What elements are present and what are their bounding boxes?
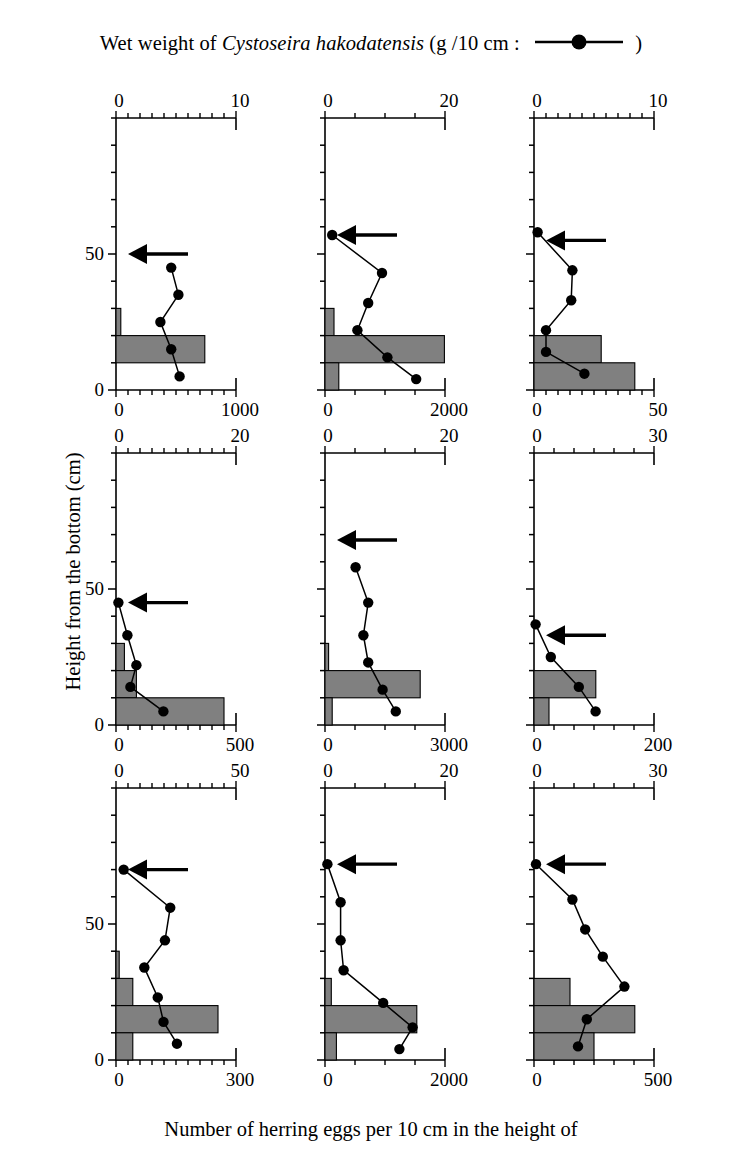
bottom-axis-min-label: 0 bbox=[323, 1070, 333, 1089]
top-axis-max-label: 30 bbox=[649, 761, 668, 780]
wet-weight-point bbox=[160, 935, 170, 945]
egg-count-bar bbox=[325, 978, 331, 1005]
upper-limit-arrow-icon bbox=[128, 593, 188, 613]
egg-count-bar bbox=[116, 978, 133, 1005]
wet-weight-point bbox=[566, 295, 576, 305]
wet-weight-point bbox=[541, 325, 551, 335]
upper-limit-arrow-icon bbox=[546, 854, 606, 874]
y-axis-tick-label: 50 bbox=[85, 244, 104, 263]
top-axis-max-label: 20 bbox=[440, 761, 459, 780]
egg-count-bar bbox=[325, 643, 329, 670]
wet-weight-point bbox=[139, 962, 149, 972]
wet-weight-point bbox=[530, 619, 540, 629]
wet-weight-point bbox=[327, 230, 337, 240]
bottom-axis-min-label: 0 bbox=[323, 735, 333, 754]
top-axis-min-label: 0 bbox=[532, 91, 542, 110]
top-axis-max-label: 20 bbox=[440, 91, 459, 110]
wet-weight-point bbox=[173, 290, 183, 300]
upper-limit-arrow-icon bbox=[337, 225, 397, 245]
wet-weight-point bbox=[363, 657, 373, 667]
wet-weight-point bbox=[172, 1038, 182, 1048]
wet-weight-point bbox=[377, 268, 387, 278]
figure-root: Wet weight of Cystoseira hakodatensis (g… bbox=[0, 0, 742, 1166]
wet-weight-point bbox=[358, 630, 368, 640]
upper-limit-arrow-icon bbox=[337, 530, 397, 550]
chart-panel-3: 010050 bbox=[464, 88, 734, 430]
egg-count-bar bbox=[116, 308, 121, 335]
wet-weight-point bbox=[567, 265, 577, 275]
bottom-axis-title: Number of herring eggs per 10 cm in the … bbox=[0, 1118, 742, 1141]
wet-weight-point bbox=[579, 368, 589, 378]
egg-count-bar bbox=[534, 1033, 594, 1060]
bottom-axis-max-label: 50 bbox=[649, 400, 668, 419]
upper-limit-arrow-icon bbox=[546, 230, 606, 250]
wet-weight-point bbox=[338, 965, 348, 975]
wet-weight-point bbox=[322, 859, 332, 869]
upper-limit-arrow-icon bbox=[128, 860, 188, 880]
wet-weight-point bbox=[335, 935, 345, 945]
bottom-axis-max-label: 2000 bbox=[430, 1070, 468, 1089]
wet-weight-point bbox=[335, 897, 345, 907]
wet-weight-point bbox=[363, 298, 373, 308]
y-axis-tick-label: 50 bbox=[85, 914, 104, 933]
top-axis-min-label: 0 bbox=[114, 91, 124, 110]
wet-weight-point bbox=[118, 864, 128, 874]
upper-limit-arrow-icon bbox=[337, 854, 397, 874]
wet-weight-point bbox=[391, 706, 401, 716]
top-axis-max-label: 30 bbox=[649, 426, 668, 445]
top-axis-min-label: 0 bbox=[323, 91, 333, 110]
wet-weight-point bbox=[165, 902, 175, 912]
egg-count-bar bbox=[325, 363, 339, 390]
wet-weight-point bbox=[166, 344, 176, 354]
wet-weight-point bbox=[532, 227, 542, 237]
egg-count-bar bbox=[116, 336, 205, 363]
wet-weight-point bbox=[580, 924, 590, 934]
wet-weight-point bbox=[166, 262, 176, 272]
egg-count-bar bbox=[534, 671, 596, 698]
bottom-axis-max-label: 3000 bbox=[430, 735, 468, 754]
wet-weight-point bbox=[541, 347, 551, 357]
wet-weight-point bbox=[378, 998, 388, 1008]
bottom-axis-max-label: 1000 bbox=[221, 400, 259, 419]
egg-count-bar bbox=[325, 1033, 336, 1060]
egg-count-bar bbox=[534, 978, 570, 1005]
y-axis-tick-label: 50 bbox=[85, 579, 104, 598]
top-axis-min-label: 0 bbox=[114, 761, 124, 780]
wet-weight-point bbox=[153, 992, 163, 1002]
wet-weight-point bbox=[113, 597, 123, 607]
bottom-axis-min-label: 0 bbox=[114, 735, 124, 754]
wet-weight-point bbox=[411, 374, 421, 384]
egg-count-bar bbox=[116, 643, 124, 670]
egg-count-bar bbox=[325, 698, 332, 725]
bottom-axis-max-label: 500 bbox=[644, 1070, 673, 1089]
wet-weight-point bbox=[573, 1041, 583, 1051]
egg-count-bar bbox=[116, 698, 224, 725]
wet-weight-point bbox=[619, 981, 629, 991]
wet-weight-point bbox=[350, 562, 360, 572]
wet-weight-point bbox=[158, 1017, 168, 1027]
bottom-axis-min-label: 0 bbox=[532, 400, 542, 419]
top-axis-max-label: 20 bbox=[440, 426, 459, 445]
wet-weight-point bbox=[363, 597, 373, 607]
wet-weight-point bbox=[377, 684, 387, 694]
y-axis-tick-label: 0 bbox=[95, 715, 105, 734]
bottom-axis-min-label: 0 bbox=[114, 1070, 124, 1089]
wet-weight-point bbox=[174, 371, 184, 381]
wet-weight-point bbox=[131, 660, 141, 670]
wet-weight-point bbox=[158, 706, 168, 716]
wet-weight-point bbox=[567, 894, 577, 904]
y-axis-tick-label: 0 bbox=[95, 380, 105, 399]
y-axis-tick-label: 0 bbox=[95, 1050, 105, 1069]
chart-panel-9: 0300500 bbox=[464, 758, 734, 1100]
bottom-axis-max-label: 300 bbox=[226, 1070, 255, 1089]
upper-limit-arrow-icon bbox=[546, 625, 606, 645]
wet-weight-point bbox=[352, 325, 362, 335]
wet-weight-point bbox=[590, 706, 600, 716]
wet-weight-point bbox=[394, 1044, 404, 1054]
wet-weight-point bbox=[531, 859, 541, 869]
wet-weight-point bbox=[574, 682, 584, 692]
upper-limit-arrow-icon bbox=[128, 244, 188, 264]
top-axis-max-label: 10 bbox=[231, 91, 250, 110]
top-axis-min-label: 0 bbox=[532, 426, 542, 445]
top-axis-max-label: 20 bbox=[231, 426, 250, 445]
